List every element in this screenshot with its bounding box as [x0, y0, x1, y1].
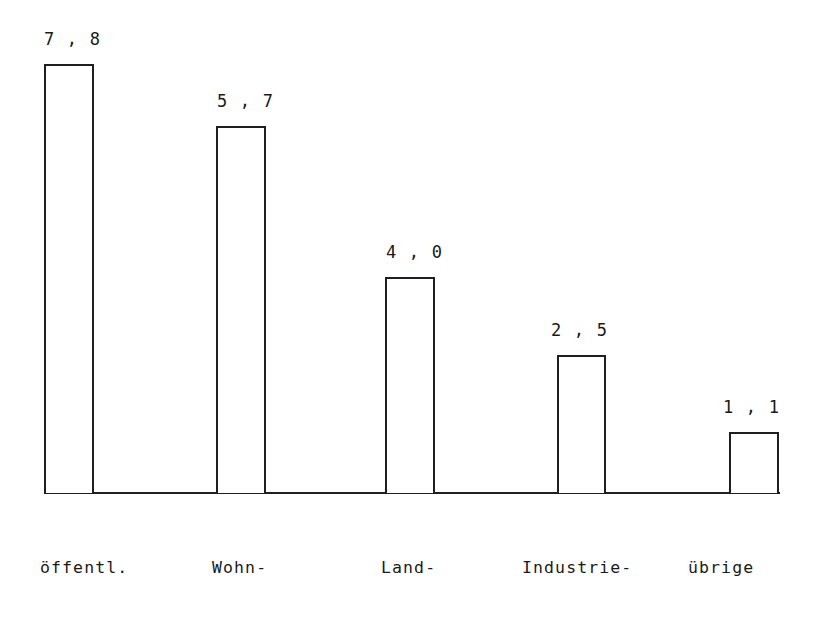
- category-label-1-line-1: öffentl.: [40, 555, 128, 581]
- bar-value-label-5: 1 , 1: [723, 399, 780, 416]
- category-label-3: Land- wirt- schafts- bauten: [381, 504, 469, 619]
- bar-value-label-4: 2 , 5: [551, 322, 608, 339]
- bar-value-label-1: 7 , 8: [44, 31, 101, 48]
- category-label-4-line-1: Industrie-: [522, 555, 632, 581]
- bar-wohnbauten: [216, 126, 266, 493]
- category-label-1: öffentl. Bauten und An- lagen: [40, 504, 128, 619]
- category-label-5-line-1: übrige: [688, 555, 765, 581]
- category-label-5: übrige private Bauten: [688, 504, 765, 619]
- category-label-2-line-1: Wohn-: [212, 555, 278, 581]
- bar-oeffentliche-bauten: [44, 64, 94, 493]
- bar-value-label-3: 4 , 0: [386, 244, 443, 261]
- category-label-2: Wohn- bauten: [212, 504, 278, 619]
- bar-industrie-gewerbebauten: [557, 355, 606, 493]
- bar-landwirtschaftsbauten: [385, 277, 435, 493]
- bar-value-label-2: 5 , 7: [217, 93, 274, 110]
- category-label-4: Industrie- und Gewer- bebauten: [522, 504, 632, 619]
- plot-area: 7 , 8 öffentl. Bauten und An- lagen 5 , …: [0, 0, 836, 619]
- category-label-3-line-1: Land-: [381, 555, 469, 581]
- bar-uebrige-private-bauten: [729, 432, 779, 493]
- bar-chart: 7 , 8 öffentl. Bauten und An- lagen 5 , …: [0, 0, 836, 619]
